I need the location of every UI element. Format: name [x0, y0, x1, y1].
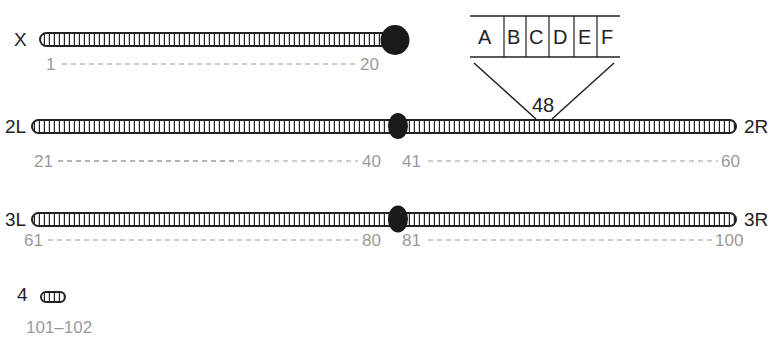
chromosome-x: X 1 20 — [14, 25, 410, 74]
chromosome-4: 4 101–102 — [17, 284, 92, 337]
range-start-41: 41 — [402, 152, 421, 171]
subdivision-b: B — [507, 26, 520, 48]
chromosome-3: 3L 3R 61 80 81 100 — [5, 206, 768, 251]
centromere-3 — [388, 206, 408, 233]
chromosome-3l-label: 3L — [5, 209, 26, 230]
range-end-80: 80 — [362, 231, 381, 250]
subdivision-a: A — [478, 26, 492, 48]
subdivision-e: E — [578, 26, 591, 48]
chromosome-2r-label: 2R — [744, 116, 768, 137]
subdivision-f: F — [601, 26, 613, 48]
range-start-81: 81 — [402, 231, 421, 250]
zoom-line-right — [552, 63, 614, 119]
range-start-21: 21 — [34, 152, 53, 171]
range-end-100: 100 — [715, 231, 743, 250]
division-48-label: 48 — [532, 94, 554, 116]
chromosome-x-arm — [40, 33, 392, 46]
chromosome-3r-label: 3R — [744, 209, 768, 230]
range-101-102: 101–102 — [26, 318, 92, 337]
centromere-x — [381, 25, 410, 55]
chromosome-3-arms — [32, 213, 736, 226]
chromosome-map: X 1 20 A B C D E F 48 2L 2R 21 40 41 — [0, 0, 775, 353]
centromere-2 — [388, 113, 408, 139]
chromosome-2: 2L 2R 21 40 41 60 — [5, 113, 768, 171]
range-end-40: 40 — [362, 152, 381, 171]
range-start-61: 61 — [24, 231, 43, 250]
subdivision-c: C — [529, 26, 543, 48]
range-end-60: 60 — [721, 152, 740, 171]
zoom-line-left — [474, 63, 536, 119]
range-end-20: 20 — [360, 55, 379, 74]
subdivision-d: D — [553, 26, 567, 48]
range-start-1: 1 — [46, 55, 55, 74]
chromosome-2l-label: 2L — [5, 116, 26, 137]
chromosome-4-arm — [41, 292, 65, 302]
chromosome-4-label: 4 — [17, 284, 28, 305]
chromosome-2-arms — [32, 120, 736, 133]
chromosome-x-label: X — [14, 29, 27, 50]
zoom-inset-48: A B C D E F 48 — [470, 16, 620, 119]
